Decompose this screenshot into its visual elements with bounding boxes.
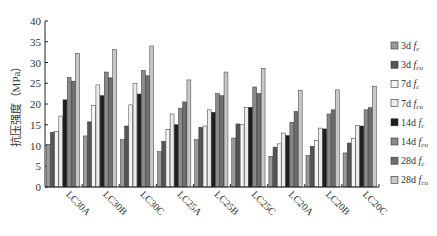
legend-item: 28d fc xyxy=(391,155,425,168)
bar xyxy=(347,143,351,187)
legend-label: 14d fc xyxy=(401,117,425,130)
x-tick-label: LC30C xyxy=(138,189,167,218)
bar xyxy=(368,108,372,187)
bar xyxy=(71,81,75,187)
bar xyxy=(170,114,174,187)
legend-item: 7d fc xyxy=(391,78,420,91)
bar-group-lc30c xyxy=(120,46,153,187)
bar xyxy=(281,133,285,187)
legend-label: 14d fcu xyxy=(401,136,428,149)
bar xyxy=(277,144,281,187)
legend-label: 3d fcu xyxy=(401,59,423,72)
x-tick-label: LC30A xyxy=(64,189,94,219)
y-tick-label: 35 xyxy=(30,36,42,48)
bar xyxy=(343,153,347,187)
bar-group-lc20a xyxy=(269,90,302,187)
legend-swatch xyxy=(391,119,398,126)
y-tick-label: 25 xyxy=(30,77,42,89)
bar xyxy=(88,122,92,187)
bar xyxy=(327,114,331,187)
bar xyxy=(109,78,113,187)
bar xyxy=(232,138,236,187)
bar xyxy=(224,72,228,187)
bar xyxy=(96,85,100,187)
bar xyxy=(269,156,273,187)
legend-item: 28d fcu xyxy=(391,174,428,187)
y-tick-label: 10 xyxy=(30,140,42,152)
bar xyxy=(351,138,355,187)
bar xyxy=(63,100,67,187)
bar xyxy=(158,152,162,187)
bar xyxy=(150,46,154,187)
x-tick-label: LC25A xyxy=(175,189,205,219)
y-tick-label: 30 xyxy=(30,57,42,69)
bar xyxy=(360,126,364,187)
bar xyxy=(356,126,360,187)
legend-swatch xyxy=(391,157,398,164)
bar xyxy=(104,72,108,187)
bar xyxy=(129,105,133,187)
bar xyxy=(335,90,339,187)
bar xyxy=(100,96,104,187)
bar-group-lc25a xyxy=(158,80,191,187)
bar xyxy=(187,80,191,187)
bar xyxy=(364,110,368,187)
bar xyxy=(216,94,220,187)
bar xyxy=(133,84,137,187)
legend-item: 14d fcu xyxy=(391,136,428,149)
bar-group-lc25b xyxy=(195,72,228,187)
bar xyxy=(166,130,170,187)
bar xyxy=(67,77,71,187)
legend-label: 7d fc xyxy=(401,78,420,91)
y-tick-label: 20 xyxy=(30,98,42,110)
bar-group-lc25c xyxy=(232,68,265,187)
bar xyxy=(50,132,54,187)
legend-swatch xyxy=(391,80,398,87)
x-tick-label: LC20A xyxy=(287,189,317,219)
x-tick-label: LC30B xyxy=(101,189,130,218)
y-tick-label: 0 xyxy=(36,181,42,193)
y-tick-label: 5 xyxy=(36,160,42,172)
bar xyxy=(174,125,178,187)
x-axis: LC30ALC30BLC30CLC25ALC25BLC25CLC20ALC20B… xyxy=(45,184,390,218)
bar xyxy=(125,126,129,187)
bar xyxy=(137,94,141,187)
y-axis-title: 抗压强度（MPa） xyxy=(9,61,22,148)
y-tick-label: 40 xyxy=(30,15,42,27)
bar xyxy=(273,147,277,187)
x-tick-label: LC25C xyxy=(250,189,279,218)
bar xyxy=(199,127,203,187)
bar xyxy=(290,122,294,187)
legend-item: 3d fc xyxy=(391,40,420,53)
bar xyxy=(146,76,150,187)
x-tick-label: LC20B xyxy=(324,189,353,218)
legend-swatch xyxy=(391,42,398,49)
bar xyxy=(141,70,145,187)
bar xyxy=(220,96,224,187)
bar xyxy=(46,144,50,187)
bar xyxy=(331,110,335,187)
bar xyxy=(113,50,117,187)
legend-item: 3d fcu xyxy=(391,59,423,72)
bar xyxy=(179,108,183,187)
legend-swatch xyxy=(391,61,398,68)
bar-group-lc20b xyxy=(306,90,339,187)
legend-label: 28d fc xyxy=(401,155,425,168)
bar xyxy=(306,155,310,187)
bar xyxy=(298,90,302,187)
legend-swatch xyxy=(391,176,398,183)
legend-swatch xyxy=(391,138,398,145)
bar xyxy=(83,136,87,187)
bar xyxy=(203,126,207,187)
bar xyxy=(162,141,166,187)
bar xyxy=(286,136,290,187)
x-tick-label: LC20C xyxy=(361,189,390,218)
bar xyxy=(120,140,124,187)
bar xyxy=(323,129,327,187)
bar xyxy=(55,131,59,187)
bar xyxy=(183,102,187,187)
bar xyxy=(76,53,80,187)
y-tick-label: 15 xyxy=(30,119,42,131)
bar xyxy=(249,107,253,187)
compressive-strength-bar-chart: 0510152025303540 抗压强度（MPa） LC30ALC30BLC3… xyxy=(0,0,437,236)
